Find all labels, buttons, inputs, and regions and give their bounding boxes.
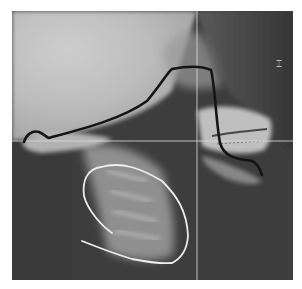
- xray-image: ⌶: [12, 11, 293, 280]
- xray-canvas: ⌶: [12, 11, 293, 280]
- orientation-mark: ⌶: [276, 58, 282, 69]
